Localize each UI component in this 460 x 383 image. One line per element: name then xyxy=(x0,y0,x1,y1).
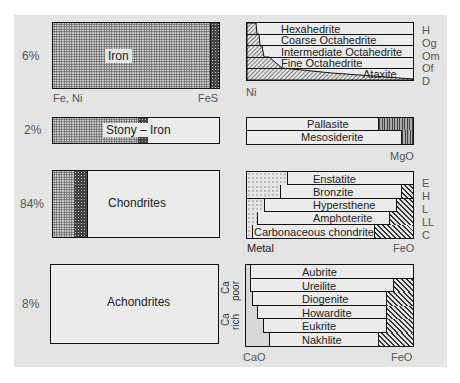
cao-ureilite xyxy=(246,279,251,293)
metal-carbonaceous xyxy=(247,225,253,238)
code-om: Om xyxy=(422,50,440,62)
ni-axis-label: Ni xyxy=(246,86,256,98)
fes-axis-label: FeS xyxy=(198,92,218,104)
feo-eukrite xyxy=(386,319,414,333)
metal-fraction xyxy=(53,171,75,237)
subtype-pallasite: Pallasite xyxy=(307,118,349,130)
achondrites-percent: 8% xyxy=(22,298,39,310)
code-e: E xyxy=(422,177,429,189)
stony-iron-subtypes-box: Pallasite Mesosiderite xyxy=(246,117,414,145)
mgo-axis-label: MgO xyxy=(390,150,414,162)
chondrites-subtypes-box: Enstatite Bronzite Hypersthene Amphoteri… xyxy=(246,171,414,239)
metal-axis-label: Metal xyxy=(247,242,274,254)
subtype-howardite: Howardite xyxy=(302,307,352,319)
feo-ureilite xyxy=(393,279,414,293)
fes-fraction xyxy=(74,171,88,237)
metal-enstatite xyxy=(247,172,288,185)
feo-amphoterite xyxy=(389,212,414,225)
feo-hypersthene xyxy=(396,199,414,212)
mesosiderite-mgo-fill xyxy=(401,130,414,144)
feo-carbonaceous xyxy=(374,225,414,238)
code-of: Of xyxy=(422,62,434,74)
feo-howardite xyxy=(386,306,414,320)
code-h: H xyxy=(422,24,430,36)
metal-amphoterite xyxy=(247,212,258,225)
feo-nakhlite xyxy=(378,333,414,347)
subtype-intermediate-octahedrite: Intermediate Octahedrite xyxy=(281,46,402,58)
stony-iron-label: Stony – Iron xyxy=(103,123,174,137)
subtype-coarse-octahedrite: Coarse Octahedrite xyxy=(281,34,376,46)
code-ll: LL xyxy=(422,216,434,228)
subtype-amphoterite: Amphoterite xyxy=(313,212,372,224)
subtype-hypersthene: Hypersthene xyxy=(313,199,375,211)
achondrites-subtypes-box: Aubrite Ureilite Diogenite Howardite Euk… xyxy=(245,264,414,347)
stony-iron-percent: 2% xyxy=(24,124,41,136)
feo-axis-label: FeO xyxy=(393,242,414,254)
metal-hypersthene xyxy=(247,199,265,212)
feo-axis-label: FeO xyxy=(391,351,412,363)
fes-band xyxy=(210,23,219,88)
fe-ni-axis-label: Fe, Ni xyxy=(53,92,82,104)
ca-rich-label-rich: rich xyxy=(231,314,241,330)
fes-marker-bottom xyxy=(138,137,148,143)
cao-howardite xyxy=(246,306,258,320)
subtype-fine-octahedrite: Fine Octahedrite xyxy=(281,57,362,69)
feo-bronzite xyxy=(401,185,414,198)
subtype-eukrite: Eukrite xyxy=(302,320,336,332)
subtype-nakhlite: Nakhlite xyxy=(302,334,342,346)
iron-subtypes-box: Hexahedrite Coarse Octahedrite Intermedi… xyxy=(246,22,414,81)
iron-composition-box: Iron xyxy=(52,22,220,89)
achondrites-label: Achondrites xyxy=(104,295,173,309)
feo-diogenite xyxy=(386,292,414,306)
subtype-hexahedrite: Hexahedrite xyxy=(281,23,340,35)
chondrites-percent: 84% xyxy=(20,198,44,210)
subtype-diogenite: Diogenite xyxy=(302,293,348,305)
cao-nakhlite xyxy=(246,333,270,347)
subtype-mesosiderite: Mesosiderite xyxy=(301,131,363,143)
cao-diogenite xyxy=(246,292,253,306)
cao-aubrite xyxy=(246,265,251,279)
ca-poor-label-poor: poor xyxy=(231,281,241,301)
subtype-bronzite: Bronzite xyxy=(313,186,353,198)
cao-axis-label: CaO xyxy=(243,351,266,363)
cao-eukrite xyxy=(246,319,264,333)
subtype-enstatite: Enstatite xyxy=(313,173,356,185)
subtype-ureilite: Ureilite xyxy=(302,280,336,292)
chondrites-label: Chondrites xyxy=(105,196,169,210)
code-h: H xyxy=(422,190,430,202)
subtype-ataxite: Ataxite xyxy=(363,68,397,80)
subtype-carbonaceous-chondrite: Carbonaceous chondrite xyxy=(254,226,374,238)
code-c: C xyxy=(422,229,430,241)
metal-bronzite xyxy=(247,185,281,198)
subtype-aubrite: Aubrite xyxy=(302,266,337,278)
stony-iron-composition-box: Stony – Iron xyxy=(52,117,220,144)
iron-label: Iron xyxy=(105,49,132,63)
chondrites-composition-box: Chondrites xyxy=(52,170,220,238)
code-d: D xyxy=(422,75,430,87)
code-l: L xyxy=(422,203,428,215)
code-og: Og xyxy=(422,37,437,49)
iron-percent: 6% xyxy=(22,50,39,62)
achondrites-composition-box: Achondrites xyxy=(50,264,219,344)
